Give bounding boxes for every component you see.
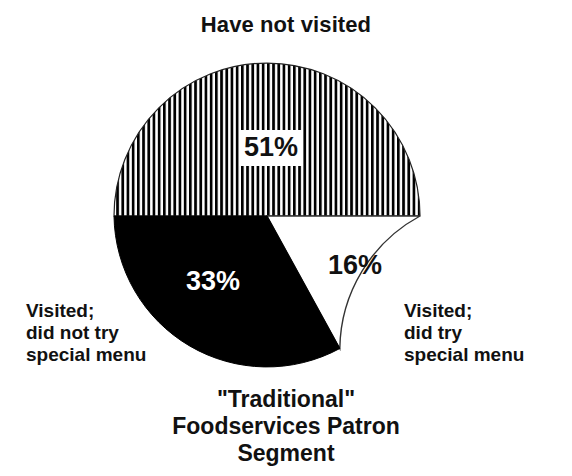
callout-left-line3: special menu [26, 344, 146, 366]
chart-caption-line1: "Traditional" [0, 386, 572, 413]
chart-top-label: Have not visited [0, 13, 572, 37]
callout-left-line1: Visited; [26, 300, 146, 322]
chart-caption-line2: Foodservices Patron [0, 413, 572, 440]
callout-left-line2: did not try [26, 322, 146, 344]
slice-value-51: 51% [239, 130, 303, 166]
slice-value-16: 16% [328, 252, 382, 279]
callout-right-line2: did try [404, 322, 524, 344]
pie-chart-graphic [111, 60, 423, 372]
chart-caption-line3: Segment [0, 440, 572, 467]
callout-right-line1: Visited; [404, 300, 524, 322]
callout-left: Visited; did not try special menu [26, 300, 146, 366]
slice-value-33: 33% [186, 268, 240, 295]
pie-chart-figure: Have not visited 51% 33% 16% Visited; di… [0, 0, 572, 476]
pie-svg [111, 60, 423, 372]
callout-right-line3: special menu [404, 344, 524, 366]
chart-caption: "Traditional" Foodservices Patron Segmen… [0, 386, 572, 467]
callout-right: Visited; did try special menu [404, 300, 524, 366]
